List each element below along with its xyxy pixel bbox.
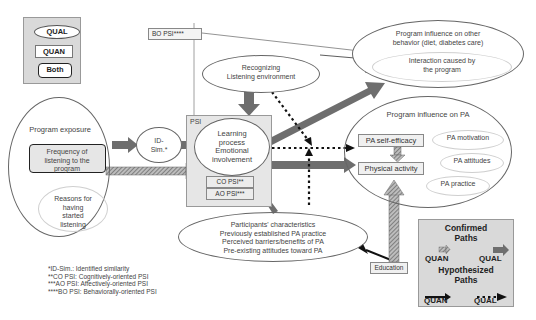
legend-qual: QUAL [34,25,80,39]
footnote-2: **CO PSI: Cognitively-oriented PSI [48,273,157,281]
pa-attitudes-label: PA attitudes [440,157,504,166]
pa-motivation-label: PA motivation [432,134,504,143]
footnotes: *ID-Sim.: Identified similarity **CO PSI… [48,265,157,295]
hypothesized-quan-label: QUAN [424,296,448,305]
co-psi-box: CO PSI** [206,176,254,188]
program-exposure-label: Program exposure [20,126,100,135]
physical-activity-box: Physical activity [358,162,424,175]
pa-self-efficacy-box: PA self-efficacy [358,134,424,147]
hypothesized-paths-title-1: Hypothesized [419,265,513,275]
pa-influence-label: Program influence on PA [344,111,512,120]
pa-practice-label: PA practice [426,180,490,189]
legend-both: Both [38,63,72,78]
hypothesized-qual-label: QUAL [474,296,497,305]
footnote-3: ***AO PSI: Affectively-oriented PSI [48,280,157,288]
footnote-4: ****BO PSI: Behaviorally-oriented PSI [48,288,157,296]
confirmed-arrows-icon [419,220,515,308]
interaction-label-2: the program [372,66,512,75]
interaction-label-1: Interaction caused by [372,57,512,66]
type-legend: QUAL QUAN Both [23,17,81,84]
psi-label: PSI [190,118,201,125]
ao-psi-box: AO PSI*** [206,188,254,200]
confirmed-quan-label: QUAN [425,254,449,263]
legend-quan: QUAN [35,45,73,58]
confirmed-qual-label: QUAL [479,254,502,263]
recognizing-label-2: Listening environment [202,73,320,82]
education-box: Education [370,262,408,274]
recognizing-label-1: Recognizing [202,64,320,73]
bo-psi-box: BO PSI**** [148,28,202,40]
path-legend: Confirmed Paths QUAN QUAL Hypothesized P… [418,219,514,307]
footnote-1: *ID-Sim.: Identified similarity [48,265,157,273]
other-behavior-label-2: behavior (diet, diabetes care) [352,39,524,48]
frequency-box: Frequency of listening to the program [29,144,106,173]
other-behavior-label-1: Program influence on other [352,30,524,39]
hypothesized-paths-title-2: Paths [419,275,513,285]
